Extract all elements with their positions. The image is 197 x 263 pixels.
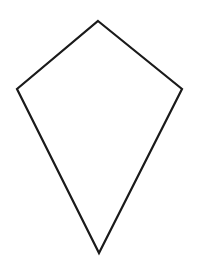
kite-shape-svg	[0, 0, 197, 263]
drawing-canvas	[0, 0, 197, 263]
